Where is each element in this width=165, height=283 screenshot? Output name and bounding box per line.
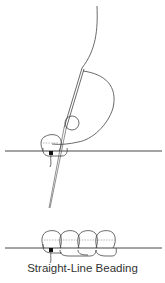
diagram-caption: Straight-Line Beading (0, 262, 165, 274)
needle-icon (49, 68, 84, 208)
knot-icon (49, 151, 53, 155)
bead-3 (78, 231, 98, 248)
bead-4 (96, 231, 115, 248)
bead-on-needle (65, 116, 79, 130)
thread-tail (50, 155, 51, 167)
thread-upper (82, 6, 97, 68)
bead-1 (42, 231, 61, 248)
thread-wrap (43, 148, 67, 156)
thread-wraps (43, 244, 117, 256)
knot-icon (49, 248, 53, 252)
thread-loop (52, 71, 114, 144)
step-1-figure (5, 6, 162, 208)
beading-diagram (0, 0, 165, 283)
step-2-figure (5, 231, 162, 263)
bead-2 (60, 231, 80, 248)
